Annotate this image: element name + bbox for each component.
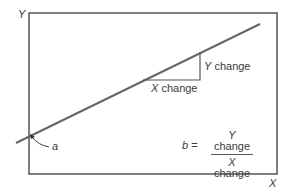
y-change-label: Y change [204,61,251,72]
slope-fraction: Y change X change [211,130,253,179]
x-change-label: X change [151,83,198,94]
equals-sign: = [188,139,197,151]
regression-line [16,24,260,143]
y-axis-label: Y [18,9,25,20]
numerator-text: change [214,140,250,152]
denominator-text: change [214,167,250,179]
x-change-text: change [158,82,197,94]
intercept-arrow [32,137,49,147]
y-change-text: change [211,60,250,72]
intercept-label: a [52,141,58,152]
x-axis-label: X [269,178,276,189]
slope-formula-lhs: b = [182,140,198,151]
fraction-denominator: X change [211,155,253,179]
fraction-numerator: Y change [211,130,253,155]
